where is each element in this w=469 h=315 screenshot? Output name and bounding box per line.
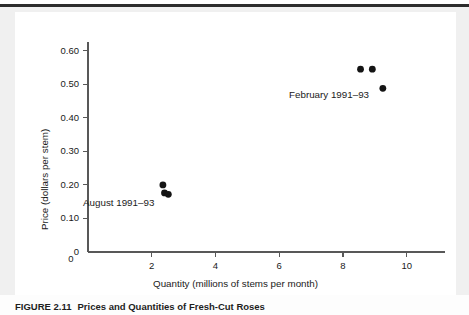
y-tick-label: 0.60: [26, 46, 79, 56]
y-tick-label: 0.50: [26, 79, 79, 89]
data-point: [160, 182, 167, 189]
series-annotation-august: August 1991–93: [83, 198, 154, 208]
data-point: [165, 191, 172, 198]
y-tick-label: 0.20: [26, 180, 79, 190]
plot-canvas: [15, 12, 456, 295]
y-tick-label: 0.10: [26, 213, 79, 223]
data-point: [357, 66, 364, 73]
figure-card: Price (dollars per stem) Quantity (milli…: [15, 12, 456, 295]
x-tick-label: 0: [56, 254, 86, 264]
figure-caption-title: Prices and Quantities of Fresh-Cut Roses: [78, 302, 265, 312]
y-tick-label: 0.40: [26, 113, 79, 123]
figure-caption: FIGURE 2.11Prices and Quantities of Fres…: [15, 302, 455, 312]
x-tick-label: 6: [264, 261, 294, 271]
x-tick-label: 8: [328, 261, 358, 271]
x-tick-label: 10: [392, 261, 422, 271]
data-point: [369, 66, 376, 73]
figure-caption-number: FIGURE 2.11: [15, 302, 72, 312]
x-tick-label: 2: [137, 261, 167, 271]
scatter-chart: Price (dollars per stem) Quantity (milli…: [15, 12, 456, 295]
data-point: [379, 85, 386, 92]
x-axis-title: Quantity (millions of stems per month): [15, 279, 456, 289]
y-tick-label: 0.30: [26, 146, 79, 156]
x-tick-label: 4: [201, 261, 231, 271]
series-annotation-february: February 1991–93: [289, 90, 369, 100]
figure-page: Price (dollars per stem) Quantity (milli…: [0, 0, 469, 315]
